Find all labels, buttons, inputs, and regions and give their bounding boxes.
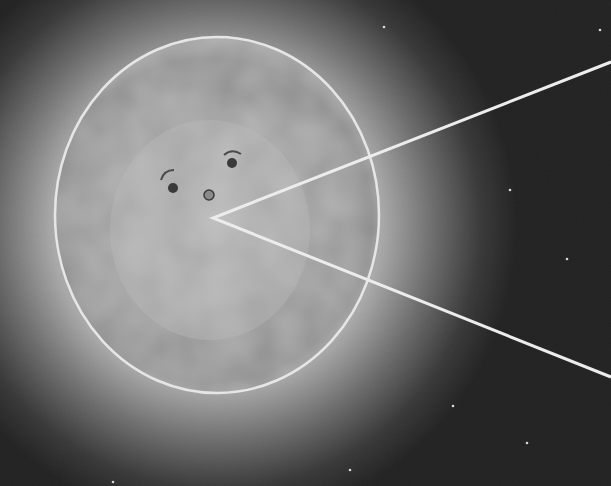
- nose: [204, 190, 214, 200]
- star: [383, 26, 386, 29]
- star: [349, 469, 352, 472]
- left-eye: [168, 183, 178, 193]
- star: [526, 442, 529, 445]
- star: [112, 481, 115, 484]
- sphere-face-scene: Grayscale glowing sphere with a simple f…: [0, 0, 611, 486]
- star: [452, 405, 455, 408]
- star: [509, 189, 512, 192]
- star: [566, 258, 569, 261]
- artwork-canvas: [0, 0, 611, 486]
- star: [599, 29, 602, 32]
- right-eye: [227, 158, 237, 168]
